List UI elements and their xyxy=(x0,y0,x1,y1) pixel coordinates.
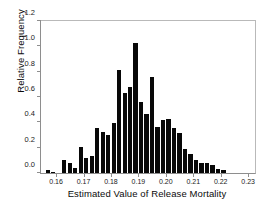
y-tick-label: 0.0 xyxy=(25,160,35,169)
histogram-bar xyxy=(106,135,110,174)
y-tick-label: 0.8 xyxy=(25,58,35,67)
x-tick-mark xyxy=(138,173,139,177)
y-tick-label: 1.2 xyxy=(25,8,35,17)
x-tick-label: 0.16 xyxy=(49,178,63,185)
x-tick-label: 0.23 xyxy=(241,178,255,185)
x-tick-label: 0.17 xyxy=(77,178,91,185)
histogram-bar xyxy=(199,163,203,173)
histogram-bar xyxy=(123,93,127,173)
histogram-bar xyxy=(205,163,209,173)
x-tick-mark xyxy=(56,173,57,177)
histogram-bar xyxy=(139,102,143,173)
histogram-bar xyxy=(194,160,198,173)
histogram-bar xyxy=(46,170,50,173)
histogram-bar xyxy=(188,154,192,173)
histogram-bar xyxy=(177,133,181,173)
y-tick-label: 0.6 xyxy=(25,84,35,93)
histogram-bar xyxy=(117,70,121,173)
x-tick-mark xyxy=(221,173,222,177)
y-tick-label: 0.2 xyxy=(25,134,35,143)
histogram-bar xyxy=(112,123,116,173)
histogram-bar xyxy=(166,119,170,173)
histogram-bar xyxy=(79,147,83,173)
x-tick-mark xyxy=(166,173,167,177)
histogram-bar xyxy=(210,165,214,173)
histogram-bar xyxy=(62,160,66,173)
x-tick-label: 0.18 xyxy=(104,178,118,185)
y-tick-label: 0.4 xyxy=(25,109,35,118)
histogram-bar xyxy=(155,127,159,173)
histogram-bar xyxy=(183,149,187,173)
histogram-bar xyxy=(101,132,105,173)
x-tick-mark xyxy=(193,173,194,177)
histogram-figure: Relative Frequency 0.00.20.40.60.81.01.2… xyxy=(0,0,270,209)
x-tick-label: 0.19 xyxy=(132,178,146,185)
x-tick-mark xyxy=(248,173,249,177)
histogram-bar xyxy=(128,87,132,173)
histogram-bar xyxy=(68,163,72,173)
x-tick-label: 0.20 xyxy=(159,178,173,185)
histogram-bar xyxy=(133,43,137,173)
histogram-bar xyxy=(95,128,99,173)
x-tick-mark xyxy=(84,173,85,177)
histogram-bar xyxy=(172,128,176,173)
histogram-bar xyxy=(161,120,165,173)
y-tick-label: 1.0 xyxy=(25,33,35,42)
histogram-bar xyxy=(73,168,77,173)
histogram-bar xyxy=(51,172,55,173)
x-tick-label: 0.22 xyxy=(214,178,228,185)
histogram-bar xyxy=(216,169,220,173)
histogram-bar xyxy=(150,77,154,173)
histogram-bar xyxy=(144,114,148,173)
histogram-bar xyxy=(221,170,225,173)
x-tick-label: 0.21 xyxy=(186,178,200,185)
bar-series xyxy=(41,21,255,173)
plot-area: 0.00.20.40.60.81.01.2 0.160.170.180.190.… xyxy=(40,20,256,174)
x-axis-label: Estimated Value of Release Mortality xyxy=(36,188,258,199)
histogram-bar xyxy=(84,158,88,173)
x-tick-mark xyxy=(111,173,112,177)
histogram-bar xyxy=(90,156,94,173)
